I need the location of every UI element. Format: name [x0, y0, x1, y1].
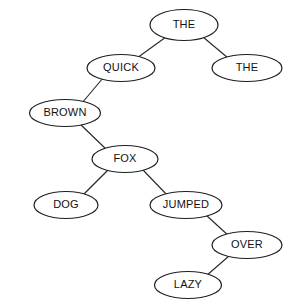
node-label: THE: [236, 61, 259, 73]
tree-edge: [137, 37, 166, 58]
node-label: THE: [173, 18, 196, 30]
tree-node[interactable]: OVER: [212, 232, 282, 259]
node-label: BROWN: [43, 106, 86, 118]
binary-tree-diagram: THEQUICKTHEBROWNFOXDOGJUMPEDOVERLAZY: [0, 0, 300, 307]
tree-edge: [143, 170, 168, 196]
tree-node[interactable]: QUICK: [87, 55, 155, 82]
tree-edge: [82, 78, 103, 103]
tree-node[interactable]: FOX: [92, 146, 158, 173]
tree-canvas: THEQUICKTHEBROWNFOXDOGJUMPEDOVERLAZY: [0, 0, 300, 307]
tree-node[interactable]: THE: [150, 10, 218, 41]
tree-node[interactable]: LAZY: [155, 272, 222, 299]
node-label: LAZY: [174, 278, 203, 290]
nodes-group: THEQUICKTHEBROWNFOXDOGJUMPEDOVERLAZY: [30, 10, 283, 299]
tree-edge: [206, 256, 229, 276]
node-label: FOX: [113, 152, 137, 164]
node-label: QUICK: [103, 61, 139, 73]
node-label: OVER: [231, 238, 263, 250]
tree-node[interactable]: THE: [212, 55, 282, 82]
tree-edge: [83, 170, 108, 195]
tree-edge: [80, 124, 107, 150]
node-label: DOG: [53, 198, 79, 210]
node-label: JUMPED: [163, 198, 209, 210]
tree-edge: [203, 37, 228, 58]
tree-node[interactable]: JUMPED: [150, 192, 222, 219]
tree-node[interactable]: BROWN: [30, 100, 101, 127]
tree-node[interactable]: DOG: [34, 192, 98, 219]
